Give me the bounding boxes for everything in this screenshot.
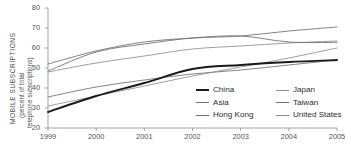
legend-line-swatch-icon	[196, 115, 209, 116]
legend-line-swatch-icon	[196, 89, 209, 91]
legend-column-right: JapanTaiwanUnited States	[276, 84, 342, 122]
legend-label: United States	[293, 109, 342, 122]
series-line-japan	[48, 41, 337, 72]
legend-label: Taiwan	[293, 97, 318, 110]
legend-line-swatch-icon	[276, 102, 289, 103]
legend-column-left: ChinaAsiaHong Kong	[196, 84, 254, 122]
legend-item[interactable]: Japan	[276, 84, 342, 97]
legend-item[interactable]: United States	[276, 109, 342, 122]
legend-label: Hong Kong	[213, 109, 254, 122]
legend-line-swatch-icon	[196, 102, 209, 103]
legend-label: Japan	[293, 84, 315, 97]
legend-line-swatch-icon	[276, 115, 289, 116]
legend-item[interactable]: Hong Kong	[196, 109, 254, 122]
series-line-hong-kong	[48, 27, 337, 64]
legend: ChinaAsiaHong Kong JapanTaiwanUnited Sta…	[196, 84, 348, 124]
legend-label: Asia	[213, 97, 229, 110]
chart-container: MOBILE SUBSCRIPTIONS (percent of total t…	[0, 0, 351, 146]
legend-label: China	[213, 84, 234, 97]
plot-area	[0, 0, 351, 146]
legend-line-swatch-icon	[276, 90, 289, 91]
legend-item[interactable]: Taiwan	[276, 97, 342, 110]
series-line-taiwan	[48, 36, 337, 71]
legend-item[interactable]: Asia	[196, 97, 254, 110]
legend-item[interactable]: China	[196, 84, 254, 97]
